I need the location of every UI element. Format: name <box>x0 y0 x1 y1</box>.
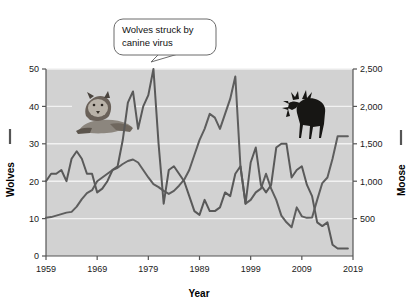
wolves-axis-title: Wolves <box>5 162 16 197</box>
left-tick-label: 50 <box>29 64 39 74</box>
right-tick-label: 2,000 <box>360 102 383 112</box>
left-tick-label: 40 <box>29 102 39 112</box>
right-tick-label: 2,500 <box>360 64 383 74</box>
x-tick-label: 2009 <box>292 264 312 274</box>
left-tick-label: 20 <box>29 177 39 187</box>
left-tick-label: 30 <box>29 139 39 149</box>
right-tick-label: 500 <box>360 214 375 224</box>
left-tick-label: 10 <box>29 214 39 224</box>
x-tick-label: 1959 <box>36 264 56 274</box>
x-tick-label: 1989 <box>189 264 209 274</box>
x-tick-label: 1999 <box>241 264 261 274</box>
right-tick-label: 1,500 <box>360 139 383 149</box>
callout-line-1: Wolves struck by <box>122 24 194 35</box>
right-tick-label: 1,000 <box>360 177 383 187</box>
callout-line-2: canine virus <box>122 37 173 48</box>
x-tick-label: 1969 <box>87 264 107 274</box>
moose-axis-title: Moose <box>396 164 407 196</box>
x-tick-label: 1979 <box>138 264 158 274</box>
chart-canvas: 01020304050 5001,0001,5002,0002,500 1959… <box>0 0 414 305</box>
left-tick-label: 0 <box>34 251 39 261</box>
year-axis-title: Year <box>188 288 209 299</box>
x-tick-label: 2019 <box>343 264 363 274</box>
wolf-moose-population-chart: 01020304050 5001,0001,5002,0002,500 1959… <box>0 0 414 305</box>
